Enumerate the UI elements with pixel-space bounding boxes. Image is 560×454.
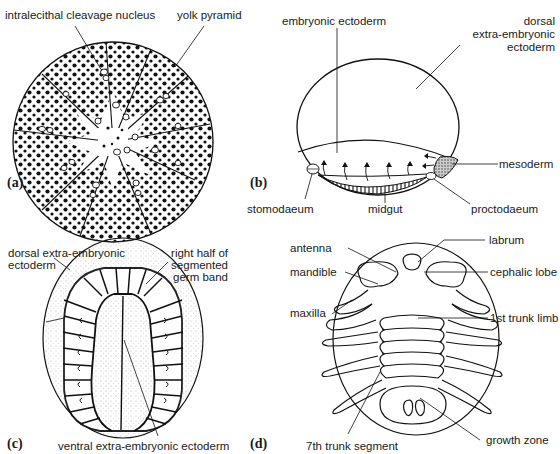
label-cephalic-lobe: cephalic lobe (490, 266, 557, 278)
label-dorsal-extra-embryonic-ectoderm-c1: dorsal extra-embryonic (8, 247, 125, 259)
label-antenna: antenna (290, 242, 332, 254)
label-first-trunk-limb: 1st trunk limb (490, 312, 558, 324)
label-right-half-2: segmented (130, 259, 228, 271)
label-dorsal-extra-embryonic-ectoderm-2: extra-embryonic (455, 28, 555, 40)
label-dorsal-extra-embryonic-ectoderm-1: dorsal (455, 15, 555, 27)
label-dorsal-extra-embryonic-ectoderm-c2: ectoderm (8, 259, 56, 271)
label-maxilla: maxilla (290, 307, 326, 319)
label-growth-zone: growth zone (486, 434, 549, 446)
label-right-half-3: germ band (130, 271, 228, 283)
label-stomodaeum: stomodaeum (247, 203, 313, 215)
diagram-canvas (0, 0, 560, 454)
label-intralecithal-cleavage-nucleus: intralecithal cleavage nucleus (5, 9, 155, 21)
label-yolk-pyramid: yolk pyramid (177, 9, 242, 21)
panel-letter-a: (a) (7, 175, 23, 191)
label-midgut: midgut (368, 203, 403, 215)
panel-d-drawing (322, 240, 502, 440)
panel-letter-c: (c) (7, 436, 23, 452)
label-mesoderm: mesoderm (499, 158, 553, 170)
panel-b-drawing (297, 28, 498, 204)
label-mandible: mandible (290, 266, 337, 278)
panel-letter-d: (d) (250, 436, 267, 452)
label-dorsal-extra-embryonic-ectoderm-3: ectoderm (455, 41, 555, 53)
label-right-half-1: right half of (130, 247, 228, 259)
panel-a-drawing (13, 26, 213, 242)
panel-letter-b: (b) (250, 175, 267, 191)
label-seventh-trunk-segment: 7th trunk segment (306, 440, 398, 452)
label-labrum: labrum (489, 234, 524, 246)
label-ventral-extra-embryonic-ectoderm: ventral extra-embryonic ectoderm (58, 440, 229, 452)
label-embryonic-ectoderm: embryonic ectoderm (282, 15, 386, 27)
label-proctodaeum: proctodaeum (471, 203, 538, 215)
